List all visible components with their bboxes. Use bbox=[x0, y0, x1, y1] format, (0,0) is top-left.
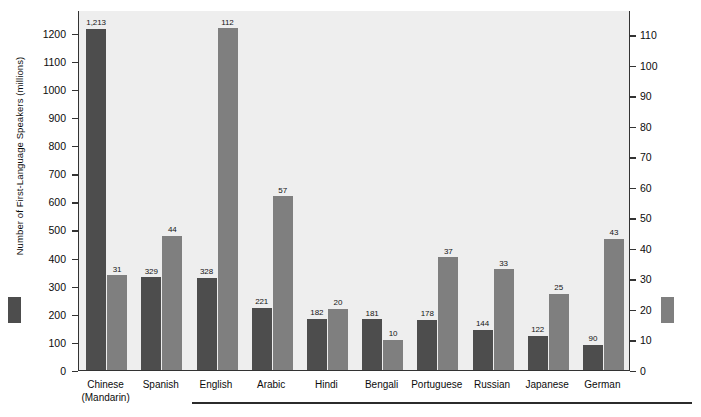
tick-mark bbox=[72, 118, 78, 119]
left-axis-tick-label: 600 bbox=[48, 197, 66, 208]
tick-mark bbox=[630, 340, 636, 341]
bar-countries-recognized bbox=[273, 196, 293, 370]
tick-mark bbox=[630, 157, 636, 158]
bar-group: 17837 bbox=[417, 11, 458, 370]
bar-value-label: 37 bbox=[432, 247, 464, 256]
legend-swatch-first-language-speakers bbox=[8, 297, 21, 323]
bar-first-language-speakers bbox=[197, 278, 217, 370]
bar-group: 9043 bbox=[583, 11, 624, 370]
bar-group: 18110 bbox=[362, 11, 403, 370]
legend-swatch-countries-recognized bbox=[661, 297, 674, 323]
tick-mark bbox=[72, 343, 78, 344]
left-axis-tick-label: 400 bbox=[48, 254, 66, 265]
tick-mark bbox=[630, 96, 636, 97]
bar-group: 14433 bbox=[473, 11, 514, 370]
left-axis-tick-label: 1100 bbox=[43, 57, 66, 68]
bar-value-label: 43 bbox=[598, 228, 630, 237]
tick-mark bbox=[630, 127, 636, 128]
left-axis-title: Number of First-Language Speakers (milli… bbox=[14, 0, 26, 316]
tick-mark bbox=[72, 90, 78, 91]
bar-countries-recognized bbox=[162, 236, 182, 370]
right-axis-tick-label: 100 bbox=[640, 61, 658, 72]
bar-value-label: 1,213 bbox=[80, 18, 112, 27]
right-axis-tick-label: 0 bbox=[640, 366, 646, 377]
bar-group: 32944 bbox=[141, 11, 182, 370]
left-axis-tick-label: 1200 bbox=[43, 29, 66, 40]
tick-mark bbox=[72, 202, 78, 203]
right-axis-tick-label: 30 bbox=[640, 274, 652, 285]
left-axis-tick-label: 100 bbox=[48, 338, 66, 349]
bar-value-label: 57 bbox=[267, 186, 299, 195]
plot-area: 1,21331329443281122215718220181101783714… bbox=[78, 11, 630, 371]
bar-value-label: 31 bbox=[101, 265, 133, 274]
tick-mark bbox=[72, 62, 78, 63]
bar-value-label: 112 bbox=[212, 18, 244, 27]
left-axis-tick-label: 800 bbox=[48, 141, 66, 152]
tick-mark bbox=[630, 371, 636, 372]
right-axis-tick-label: 90 bbox=[640, 91, 652, 102]
right-axis-tick-label: 50 bbox=[640, 213, 652, 224]
bar-value-label: 181 bbox=[356, 309, 388, 318]
tick-mark bbox=[630, 279, 636, 280]
bar-countries-recognized bbox=[438, 257, 458, 370]
left-axis-tick-label: 0 bbox=[60, 366, 66, 377]
left-axis-tick-label: 700 bbox=[48, 169, 66, 180]
tick-mark bbox=[72, 34, 78, 35]
bar-countries-recognized bbox=[549, 294, 569, 370]
bar-countries-recognized bbox=[604, 239, 624, 370]
tick-mark bbox=[630, 310, 636, 311]
right-axis-tick-label: 20 bbox=[640, 305, 652, 316]
left-axis-tick-label: 1000 bbox=[43, 85, 66, 96]
bars-layer: 1,21331329443281122215718220181101783714… bbox=[79, 11, 629, 370]
right-axis-tick-label: 70 bbox=[640, 152, 652, 163]
tick-mark bbox=[72, 146, 78, 147]
tick-mark bbox=[72, 259, 78, 260]
right-axis-tick-label: 110 bbox=[640, 30, 657, 41]
tick-mark bbox=[72, 230, 78, 231]
bar-countries-recognized bbox=[494, 269, 514, 370]
bar-first-language-speakers bbox=[362, 319, 382, 370]
bar-first-language-speakers bbox=[252, 308, 272, 370]
tick-mark bbox=[630, 218, 636, 219]
bar-chart-figure: Number of First-Language Speakers (milli… bbox=[0, 0, 701, 417]
bar-value-label: 44 bbox=[156, 225, 188, 234]
bar-countries-recognized bbox=[107, 275, 127, 370]
bar-value-label: 25 bbox=[543, 283, 575, 292]
right-axis-tick-label: 10 bbox=[640, 335, 652, 346]
tick-mark bbox=[630, 188, 636, 189]
bar-group: 1,21331 bbox=[86, 11, 127, 370]
tick-mark bbox=[72, 174, 78, 175]
tick-mark bbox=[72, 371, 78, 372]
bar-first-language-speakers bbox=[583, 345, 603, 370]
bar-first-language-speakers bbox=[141, 277, 161, 370]
tick-mark bbox=[72, 315, 78, 316]
bar-value-label: 10 bbox=[377, 329, 409, 338]
right-axis-tick-label: 80 bbox=[640, 122, 652, 133]
bar-countries-recognized bbox=[383, 340, 403, 371]
right-axis-tick-label: 40 bbox=[640, 244, 652, 255]
bar-group: 22157 bbox=[252, 11, 293, 370]
category-label: German bbox=[569, 378, 636, 391]
left-axis-tick-label: 300 bbox=[48, 282, 66, 293]
left-axis-tick-label: 500 bbox=[48, 225, 66, 236]
right-axis-tick-label: 60 bbox=[640, 183, 652, 194]
bar-first-language-speakers bbox=[307, 319, 327, 370]
bar-value-label: 33 bbox=[488, 259, 520, 268]
tick-mark bbox=[630, 249, 636, 250]
bar-first-language-speakers bbox=[417, 320, 437, 370]
bar-first-language-speakers bbox=[528, 336, 548, 370]
tick-mark bbox=[630, 35, 636, 36]
bar-group: 12225 bbox=[528, 11, 569, 370]
tick-mark bbox=[630, 66, 636, 67]
bar-group: 328112 bbox=[197, 11, 238, 370]
bar-group: 18220 bbox=[307, 11, 348, 370]
bar-countries-recognized bbox=[328, 309, 348, 370]
tick-mark bbox=[72, 287, 78, 288]
bottom-rule-divider bbox=[192, 402, 692, 404]
bar-value-label: 20 bbox=[322, 298, 354, 307]
bar-countries-recognized bbox=[218, 28, 238, 370]
bar-first-language-speakers bbox=[86, 29, 106, 370]
left-axis-tick-label: 900 bbox=[48, 113, 66, 124]
left-axis-tick-label: 200 bbox=[48, 310, 66, 321]
bar-first-language-speakers bbox=[473, 330, 493, 371]
